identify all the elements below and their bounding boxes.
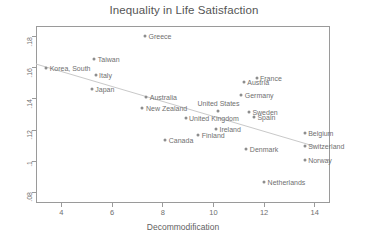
plot-area: GreeceTaiwanKorea, SouthItalyFranceAustr…	[36, 26, 330, 203]
data-point-label: Norway	[308, 157, 332, 164]
data-point-label: Denmark	[250, 145, 278, 152]
data-point	[45, 66, 48, 69]
data-point-label: Switzerland	[308, 143, 344, 150]
data-point-label: Australia	[150, 93, 177, 100]
data-point	[143, 35, 146, 38]
y-tick-label: .14	[27, 99, 34, 109]
x-tick-mark	[213, 203, 214, 207]
regression-line	[36, 26, 330, 203]
x-tick-label: 6	[110, 208, 114, 217]
y-tick-label: .18	[27, 37, 34, 47]
y-tick-label: .08	[27, 192, 34, 202]
data-point	[184, 117, 187, 120]
data-point-label: Finland	[202, 132, 225, 139]
y-tick-label: .12	[27, 130, 34, 140]
data-point	[303, 145, 306, 148]
x-tick-mark	[264, 203, 265, 207]
data-point	[164, 139, 167, 142]
data-point-label: Belgium	[308, 130, 333, 137]
x-axis-title: Decommodification	[36, 222, 330, 232]
data-point	[245, 147, 248, 150]
data-point-label: Taiwan	[98, 56, 120, 63]
data-point	[247, 111, 250, 114]
x-tick-mark	[61, 203, 62, 207]
data-point-label: Korea, South	[50, 64, 91, 71]
data-point-label: Canada	[169, 137, 194, 144]
data-point-label: Italy	[99, 71, 112, 78]
data-point	[197, 134, 200, 137]
x-tick-label: 14	[311, 208, 319, 217]
data-point-label: Spain	[257, 113, 275, 120]
scatter-chart: Inequality in Life Satisfaction GreeceTa…	[0, 0, 368, 243]
data-point-label: New Zealand	[146, 104, 187, 111]
data-point-label: Germany	[245, 92, 274, 99]
data-point	[94, 73, 97, 76]
x-tick-label: 12	[260, 208, 268, 217]
y-tick-label: .16	[27, 68, 34, 78]
x-tick-mark	[162, 203, 163, 207]
data-point	[214, 128, 217, 131]
y-tick-label: .1	[27, 161, 34, 167]
data-point	[217, 109, 220, 112]
data-point	[93, 58, 96, 61]
data-point	[141, 106, 144, 109]
data-point	[145, 95, 148, 98]
data-point-label: Austria	[247, 78, 269, 85]
chart-title: Inequality in Life Satisfaction	[0, 4, 368, 16]
data-point	[303, 132, 306, 135]
data-point	[303, 159, 306, 162]
data-point	[90, 87, 93, 90]
data-point	[252, 115, 255, 118]
x-tick-mark	[314, 203, 315, 207]
data-point-label: Netherlands	[268, 179, 306, 186]
data-point	[242, 80, 245, 83]
data-point-label: United States	[197, 99, 239, 106]
data-point-label: Greece	[148, 33, 171, 40]
data-point	[240, 94, 243, 97]
data-point-label: Japan	[95, 85, 114, 92]
x-tick-mark	[112, 203, 113, 207]
x-tick-label: 10	[209, 208, 217, 217]
data-point-label: United Kingdom	[189, 115, 239, 122]
x-tick-label: 4	[59, 208, 63, 217]
x-tick-label: 8	[161, 208, 165, 217]
data-point	[263, 181, 266, 184]
